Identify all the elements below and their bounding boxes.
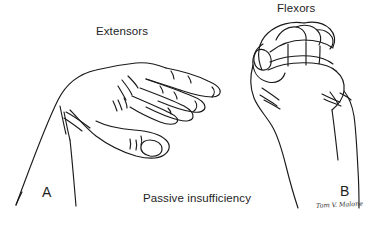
panel-label-b: B <box>340 184 349 198</box>
panel-b-hand-flexors <box>251 22 359 208</box>
figure-caption: Passive insufficiency <box>143 193 251 205</box>
panel-label-a: A <box>42 185 51 199</box>
label-extensors: Extensors <box>96 26 148 38</box>
label-flexors: Flexors <box>277 3 315 15</box>
figure-passive-insufficiency: Extensors Flexors A B Passive insufficie… <box>0 0 377 227</box>
